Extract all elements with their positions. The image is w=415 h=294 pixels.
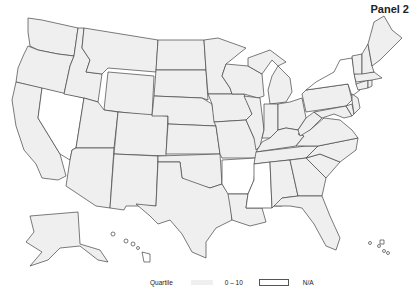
state-wyoming[interactable] — [104, 72, 154, 116]
legend: Quartile 0 – 10 N/A — [150, 275, 314, 289]
territory-islands[interactable] — [369, 240, 390, 255]
state-maine[interactable] — [368, 16, 402, 66]
state-colorado[interactable] — [114, 112, 168, 156]
state-south-dakota[interactable] — [154, 70, 208, 100]
legend-swatch-na — [259, 279, 289, 286]
state-kansas[interactable] — [166, 124, 220, 154]
legend-title: Quartile — [150, 279, 173, 286]
state-rhode-island[interactable] — [368, 80, 372, 88]
state-arizona[interactable] — [66, 148, 114, 208]
state-florida[interactable] — [274, 196, 340, 250]
state-vermont[interactable] — [352, 54, 362, 74]
state-hawaii[interactable] — [111, 232, 150, 262]
state-alaska[interactable] — [26, 212, 108, 266]
state-north-dakota[interactable] — [156, 40, 206, 70]
state-michigan-lower[interactable] — [268, 66, 292, 104]
legend-label-0-10: 0 – 10 — [225, 279, 243, 286]
state-new-mexico[interactable] — [110, 154, 158, 210]
legend-label-na: N/A — [303, 279, 314, 286]
us-choropleth-map — [0, 0, 415, 294]
legend-swatch-0-10 — [191, 280, 213, 285]
state-montana[interactable] — [82, 28, 158, 74]
